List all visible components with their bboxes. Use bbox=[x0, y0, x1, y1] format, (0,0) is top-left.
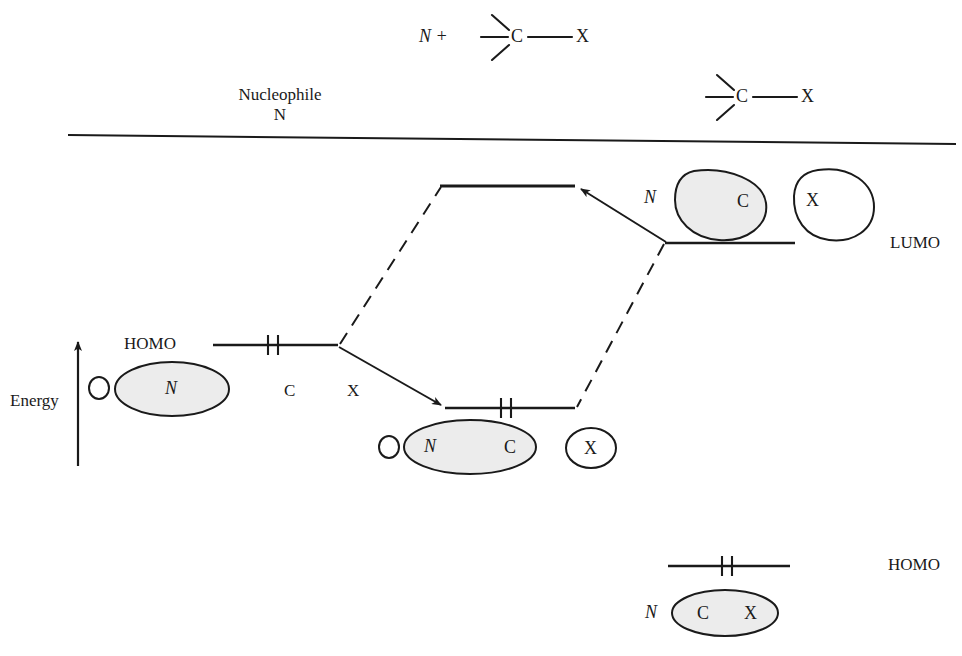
reactant-homo-halide-caption: X bbox=[347, 381, 359, 401]
product-leaving-group-label: X bbox=[801, 86, 814, 107]
bonding-halide-label: X bbox=[584, 438, 597, 459]
bonding-nitrogen-label: N bbox=[424, 436, 436, 457]
product-carbon-atom-label: C bbox=[736, 86, 748, 107]
energy-axis-label: Energy bbox=[10, 391, 59, 411]
reagent-label: N + bbox=[419, 26, 448, 47]
nucleophile-caption-line1: Nucleophile bbox=[215, 85, 345, 105]
lobe-product-homo-cx-shaded bbox=[672, 590, 778, 636]
reactant-leaving-group-label: X bbox=[576, 26, 589, 47]
lumo-halide-lobe-label: X bbox=[806, 190, 819, 211]
reactant-homo-carbon-caption: C bbox=[284, 381, 295, 401]
nucleophile-caption: Nucleophile N bbox=[215, 85, 345, 124]
lumo-carbon-lobe-label: C bbox=[737, 191, 749, 212]
lumo-level-label: LUMO bbox=[890, 233, 940, 253]
product-homo-level-label: HOMO bbox=[888, 555, 940, 575]
mo-correlation-figure: N + C X Nucleophile N C X Energy HOMO N … bbox=[0, 0, 962, 656]
product-homo-carbon-label: C bbox=[697, 603, 709, 624]
reactant-carbon-atom-label: C bbox=[511, 26, 523, 47]
header-divider-rule bbox=[68, 135, 956, 144]
nucleophile-caption-line2: N bbox=[215, 105, 345, 125]
diagram-vector-layer bbox=[0, 0, 962, 656]
reactant-homo-level-label: HOMO bbox=[124, 334, 176, 354]
product-homo-halide-label: X bbox=[744, 603, 757, 624]
product-homo-nucleophile-label: N bbox=[645, 602, 657, 623]
lobe-lumo-carbon-shaded bbox=[675, 170, 766, 240]
correlation-dashed-homo-to-antibonding bbox=[340, 187, 441, 344]
lobe-reactant-homo-small-empty bbox=[89, 377, 109, 399]
correlation-dashed-lumo-to-bonding bbox=[577, 244, 664, 407]
top-right-structure-bonds bbox=[706, 75, 797, 120]
reactant-homo-nitrogen-label: N bbox=[165, 378, 177, 399]
bonding-carbon-label: C bbox=[504, 437, 516, 458]
top-left-structure-bonds bbox=[481, 15, 572, 60]
lobe-bonding-small-empty bbox=[379, 436, 399, 458]
lumo-nitrogen-label: N bbox=[644, 187, 656, 208]
